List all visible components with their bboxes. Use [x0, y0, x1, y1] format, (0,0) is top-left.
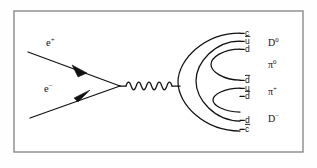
- particle-charge-Dminus: −: [275, 112, 279, 119]
- particle-charge-D0: 0: [275, 36, 279, 43]
- particle-charge-piplus: +: [273, 85, 277, 92]
- feynman-diagram-figure: cudduddc D0π0π+D− e+ e−: [0, 0, 317, 168]
- quark-label-q6: d: [245, 91, 250, 101]
- feynman-diagram-canvas: cudduddc D0π0π+D− e+ e−: [0, 0, 317, 168]
- particle-base-Dminus: D: [268, 113, 275, 124]
- figure-border-frame: [14, 11, 303, 152]
- particle-base-D0: D: [268, 37, 275, 48]
- particle-charge-pi0: 0: [273, 58, 277, 65]
- electron-charge: −: [49, 82, 53, 90]
- positron-charge: +: [51, 36, 55, 44]
- quark-label-q3: d: [245, 44, 250, 54]
